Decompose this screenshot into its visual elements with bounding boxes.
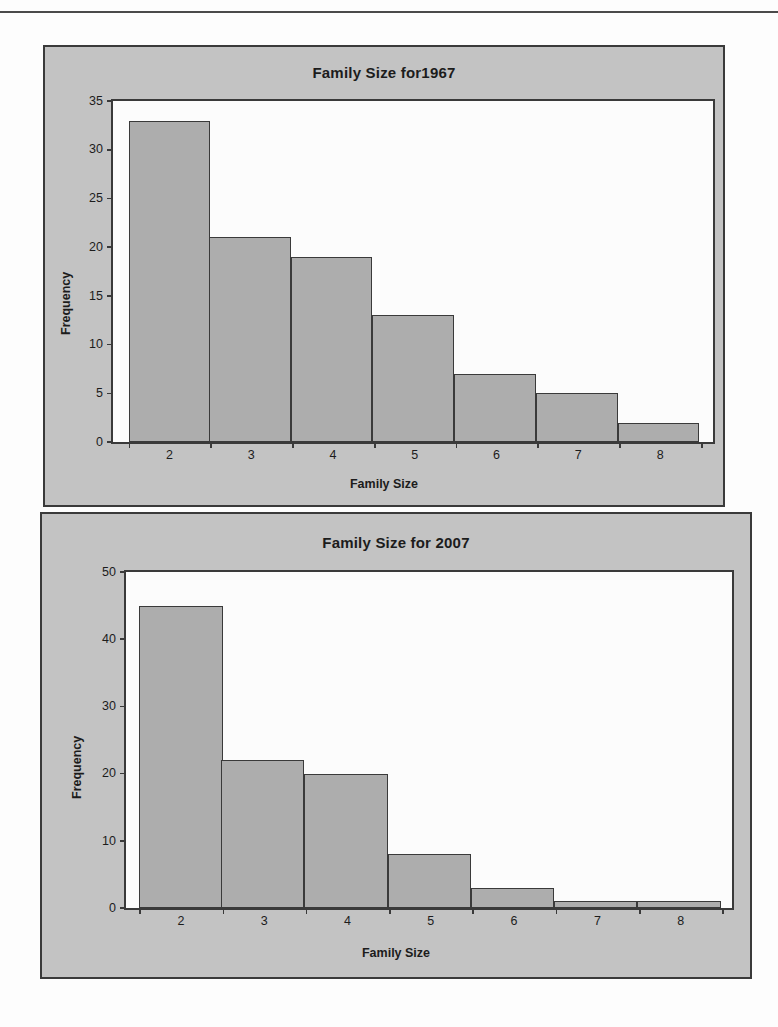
y-tick-label: 15	[89, 290, 107, 303]
x-tick-mark	[701, 442, 703, 448]
x-tick-mark	[619, 442, 621, 448]
bar	[129, 121, 211, 443]
x-tick-mark	[456, 442, 458, 448]
x-tick-mark	[472, 908, 474, 914]
y-tick-mark	[107, 198, 113, 200]
x-tick-label: 8	[657, 449, 664, 462]
x-axis-label-2007: Family Size	[42, 946, 750, 960]
page-header-rule	[0, 11, 778, 13]
y-tick-mark	[107, 149, 113, 151]
y-tick-label: 10	[102, 835, 120, 848]
x-tick-label: 6	[493, 449, 500, 462]
y-tick-mark	[120, 638, 126, 640]
x-tick-mark	[389, 908, 391, 914]
y-tick-label: 20	[89, 241, 107, 254]
x-tick-mark	[210, 442, 212, 448]
y-tick-label: 40	[102, 633, 120, 646]
x-tick-mark	[374, 442, 376, 448]
bar	[372, 315, 454, 442]
y-tick-label: 30	[102, 700, 120, 713]
y-tick-label: 0	[109, 902, 120, 915]
y-tick-label: 5	[96, 387, 107, 400]
x-tick-label: 5	[411, 449, 418, 462]
y-tick-label: 0	[96, 436, 107, 449]
y-tick-mark	[107, 393, 113, 395]
chart-title-1967: Family Size for1967	[45, 64, 723, 81]
bars-layer-1967	[113, 101, 713, 442]
y-tick-mark	[120, 571, 126, 573]
bars-layer-2007	[126, 572, 732, 908]
x-tick-label: 4	[330, 449, 337, 462]
x-tick-mark	[292, 442, 294, 448]
y-tick-label: 10	[89, 338, 107, 351]
x-tick-mark	[639, 908, 641, 914]
y-tick-mark	[107, 100, 113, 102]
y-tick-label: 35	[89, 95, 107, 108]
x-axis-label-1967: Family Size	[45, 477, 723, 491]
y-tick-label: 50	[102, 566, 120, 579]
bar	[471, 888, 554, 908]
x-tick-label: 5	[427, 915, 434, 928]
x-tick-mark	[537, 442, 539, 448]
x-axis-ticks-2007: 2345678	[126, 908, 732, 934]
bar	[291, 257, 373, 442]
y-tick-mark	[107, 246, 113, 248]
bar	[536, 393, 618, 442]
bar	[139, 606, 222, 908]
x-tick-label: 3	[248, 449, 255, 462]
bar	[554, 901, 637, 908]
bar	[618, 423, 700, 442]
y-axis-label-1967: Frequency	[59, 272, 73, 335]
x-tick-mark	[139, 908, 141, 914]
bar	[209, 237, 291, 442]
x-tick-label: 3	[261, 915, 268, 928]
x-tick-mark	[556, 908, 558, 914]
bar	[304, 774, 387, 908]
x-tick-label: 4	[344, 915, 351, 928]
bar	[388, 854, 471, 908]
x-tick-mark	[306, 908, 308, 914]
x-tick-label: 6	[511, 915, 518, 928]
x-tick-label: 2	[177, 915, 184, 928]
plot-area-2007: 01020304050 2345678	[124, 570, 734, 910]
x-tick-label: 7	[594, 915, 601, 928]
chart-panel-2007: Family Size for 2007 Frequency 010203040…	[40, 512, 752, 979]
y-axis-label-2007: Frequency	[70, 736, 84, 799]
plot-area-1967: 05101520253035 2345678	[111, 99, 715, 444]
chart-title-2007: Family Size for 2007	[42, 534, 750, 551]
y-tick-mark	[120, 840, 126, 842]
bar	[221, 760, 304, 908]
y-tick-mark	[120, 773, 126, 775]
y-tick-label: 25	[89, 192, 107, 205]
x-tick-label: 7	[575, 449, 582, 462]
bar	[454, 374, 536, 442]
y-tick-label: 30	[89, 143, 107, 156]
x-axis-ticks-1967: 2345678	[113, 442, 713, 468]
x-tick-label: 2	[166, 449, 173, 462]
y-tick-label: 20	[102, 767, 120, 780]
y-tick-mark	[120, 706, 126, 708]
x-tick-mark	[722, 908, 724, 914]
x-tick-mark	[129, 442, 131, 448]
bar	[637, 901, 720, 908]
x-tick-label: 8	[677, 915, 684, 928]
x-tick-mark	[223, 908, 225, 914]
y-tick-mark	[107, 295, 113, 297]
chart-panel-1967: Family Size for1967 Frequency 0510152025…	[43, 45, 725, 507]
y-tick-mark	[107, 344, 113, 346]
